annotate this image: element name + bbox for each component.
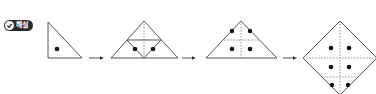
arrow-right-icon <box>283 56 297 59</box>
paper-folding-diagram <box>0 0 376 94</box>
step-2-unfold-half <box>111 21 178 58</box>
step-4-unfold-square <box>303 21 376 94</box>
arrow-right-icon <box>182 56 196 59</box>
step-3-unfold-triangle <box>206 21 277 58</box>
step-1-folded-triangle <box>48 22 82 58</box>
arrow-right-icon <box>89 56 104 59</box>
